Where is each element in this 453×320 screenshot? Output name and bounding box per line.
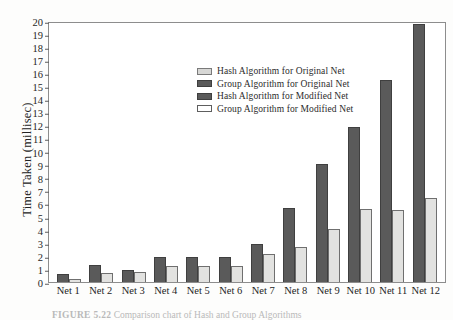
x-tick-label: Net 4 (150, 285, 183, 296)
y-tick: 3 (38, 240, 49, 251)
y-tick: 14 (33, 96, 50, 107)
y-tick: 18 (33, 44, 50, 55)
bar (122, 270, 134, 282)
x-tick-label: Net 5 (182, 285, 215, 296)
y-tick-label: 4 (38, 227, 43, 238)
bar (263, 254, 275, 282)
y-tick: 11 (33, 135, 49, 146)
bar (316, 164, 328, 282)
bar-group (215, 23, 247, 282)
y-tick: 6 (38, 200, 49, 211)
legend-item: Hash Algorithm for Original Net (197, 66, 353, 76)
bar (380, 80, 392, 282)
bar (57, 274, 69, 282)
figure-caption: FIGURE 5.22 Comparison chart of Hash and… (52, 310, 447, 320)
bar-group (85, 23, 117, 282)
bar (219, 257, 231, 282)
y-tick: 20 (33, 18, 50, 29)
bar (186, 257, 198, 282)
x-tick-label: Net 7 (247, 285, 280, 296)
legend-swatch (197, 93, 212, 100)
bar (134, 272, 146, 282)
y-tick: 10 (33, 148, 50, 159)
bar (251, 244, 263, 282)
y-tick: 9 (38, 161, 49, 172)
bar-group (409, 23, 441, 282)
plot-area: 20191817161514131211109876543210 Hash Al… (48, 22, 446, 283)
y-tick: 4 (38, 227, 49, 238)
y-tick-label: 13 (33, 109, 44, 120)
bar (198, 266, 210, 282)
x-tick-label: Net 12 (410, 285, 443, 296)
y-tick-label: 6 (38, 200, 43, 211)
bar-group (312, 23, 344, 282)
y-tick: 16 (33, 70, 50, 81)
y-tick-label: 16 (33, 70, 44, 81)
bar-group (53, 23, 85, 282)
caption-text: Comparison chart of Hash and Group Algor… (114, 310, 302, 320)
x-tick-label: Net 3 (117, 285, 150, 296)
y-tick-label: 14 (33, 96, 44, 107)
bar (392, 210, 404, 282)
x-tick-label: Net 11 (377, 285, 410, 296)
legend-item: Group Algorithm for Modified Net (197, 104, 353, 114)
bar (89, 265, 101, 282)
bar-group (247, 23, 279, 282)
y-tick: 12 (33, 122, 50, 133)
bar-group (279, 23, 311, 282)
bar-group (182, 23, 214, 282)
caption-label: FIGURE 5.22 (52, 310, 111, 320)
y-tick-label: 2 (38, 253, 43, 264)
y-tick: 13 (33, 109, 50, 120)
legend-label: Group Algorithm for Original Net (217, 79, 349, 89)
y-tick-label: 7 (38, 187, 43, 198)
bar (154, 257, 166, 282)
y-tick-label: 10 (33, 148, 44, 159)
y-tick: 7 (38, 187, 49, 198)
legend-swatch (197, 80, 212, 87)
y-tick-label: 15 (33, 83, 44, 94)
y-tick-label: 18 (33, 44, 44, 55)
y-tick: 8 (38, 174, 49, 185)
y-tick-label: 20 (33, 18, 44, 29)
chart-legend: Hash Algorithm for Original NetGroup Alg… (197, 66, 353, 114)
y-tick: 1 (38, 266, 49, 277)
x-tick-label: Net 1 (52, 285, 85, 296)
x-tick-label: Net 10 (345, 285, 378, 296)
bar (69, 279, 81, 282)
y-tick: 19 (33, 31, 50, 42)
bar (231, 266, 243, 282)
bar (295, 247, 307, 282)
y-tick-label: 3 (38, 240, 43, 251)
y-tick-label: 5 (38, 214, 43, 225)
legend-item: Hash Algorithm for Modified Net (197, 91, 353, 101)
y-tick-label: 0 (38, 279, 43, 290)
y-tick: 15 (33, 83, 50, 94)
y-tick: 5 (38, 214, 49, 225)
y-tick-label: 11 (33, 135, 43, 146)
y-tick-label: 17 (33, 57, 44, 68)
y-tick: 17 (33, 57, 50, 68)
x-axis-labels: Net 1Net 2Net 3Net 4Net 5Net 6Net 7Net 8… (48, 285, 446, 296)
bar (283, 208, 295, 282)
y-tick-label: 19 (33, 31, 44, 42)
y-tick-label: 8 (38, 174, 43, 185)
legend-label: Hash Algorithm for Modified Net (217, 91, 348, 101)
bar (166, 266, 178, 282)
bar (413, 24, 425, 282)
bar (425, 198, 437, 282)
y-tick-label: 9 (38, 161, 43, 172)
y-tick-label: 12 (33, 122, 44, 133)
legend-swatch (197, 105, 212, 112)
x-tick-label: Net 9 (312, 285, 345, 296)
bar (360, 209, 372, 282)
legend-item: Group Algorithm for Original Net (197, 79, 353, 89)
bar (101, 273, 113, 282)
y-tick-label: 1 (38, 266, 43, 277)
bar (328, 229, 340, 282)
bar-group (118, 23, 150, 282)
bar-group (376, 23, 408, 282)
x-tick-label: Net 6 (215, 285, 248, 296)
x-tick-label: Net 8 (280, 285, 313, 296)
bar-group (150, 23, 182, 282)
